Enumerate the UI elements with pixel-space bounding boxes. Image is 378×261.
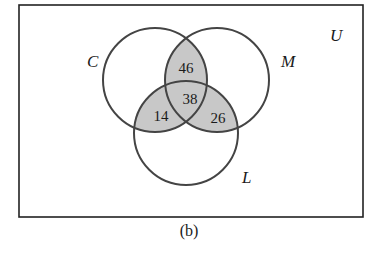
region-c-l: 14 [154, 108, 170, 124]
set-l-label: L [241, 168, 251, 187]
set-m-label: M [280, 52, 296, 71]
region-m-l: 26 [211, 110, 227, 126]
shaded-intersections [134, 28, 269, 185]
figure-caption: (b) [0, 222, 378, 240]
set-c-label: C [87, 52, 99, 71]
universe-label: U [330, 26, 344, 45]
region-c-m: 46 [179, 60, 195, 76]
region-c-m-l: 38 [183, 91, 198, 107]
